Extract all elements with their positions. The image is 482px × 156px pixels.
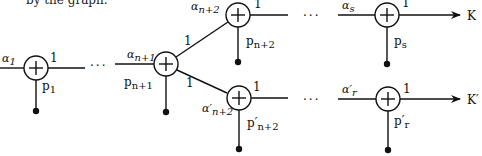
terminal-dot-icon (385, 147, 391, 153)
terminal-dot-icon (384, 61, 390, 67)
p-n1-label: pn+1 (124, 75, 153, 91)
alpha-s-label: αs (342, 0, 355, 14)
output-K-label: K (467, 9, 477, 23)
output-K-prime-label: K′ (467, 93, 479, 107)
weight-n1-down-label: 1 (186, 76, 194, 90)
sum-node-1 (24, 56, 48, 80)
signal-flow-diagram: by the graph. (0, 0, 482, 156)
weight-n1-up-label: 1 (184, 34, 192, 48)
terminal-dot-icon (235, 59, 241, 65)
caption-fragment: by the graph. (26, 0, 108, 7)
alpha-1-label: α1 (2, 52, 16, 67)
terminal-dot-icon (163, 109, 169, 115)
p-n2-label: pn+2 (246, 34, 275, 50)
p-s-label: ps (394, 34, 407, 50)
sum-node-n1 (154, 52, 178, 76)
weight-1-label: 1 (50, 51, 58, 65)
p-r-prime-label: p′r (394, 114, 409, 130)
weight-s-label: 1 (402, 0, 410, 10)
ellipsis-top: ··· (303, 9, 320, 23)
p-1-label: p1 (42, 79, 56, 95)
ellipsis-row1: ··· (90, 59, 107, 73)
p-n2-prime-label: p′n+2 (247, 116, 279, 132)
alpha-r-prime-label: α′r (342, 83, 358, 98)
terminal-dot-icon (33, 108, 39, 114)
sum-node-s (375, 3, 399, 27)
weight-n2-label: 1 (254, 0, 262, 11)
sum-node-r-prime (376, 87, 400, 111)
weight-n2-prime-label: 1 (253, 80, 261, 94)
alpha-n2-label: αn+2 (191, 0, 220, 15)
sum-node-n2 (226, 3, 250, 27)
alpha-n1-label: αn+1 (127, 48, 156, 63)
weight-r-prime-label: 1 (403, 82, 411, 96)
terminal-dot-icon (236, 146, 242, 152)
ellipsis-bottom: ··· (303, 93, 320, 107)
edge-nn1-nn2p (177, 70, 227, 93)
